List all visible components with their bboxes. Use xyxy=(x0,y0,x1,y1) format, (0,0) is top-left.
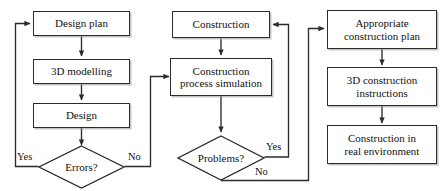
node-construction-in-real-environment-line2: real environment xyxy=(342,145,423,157)
edge-label-problems-no-text: No xyxy=(255,166,268,177)
node-appropriate-construction-plan-line1: Appropriate xyxy=(352,17,411,29)
edge-label-errors-yes: Yes xyxy=(17,151,32,162)
edge-label-errors-no: No xyxy=(128,151,141,162)
node-3d-construction-instructions[interactable]: 3D construction instructions xyxy=(327,67,437,106)
node-appropriate-construction-plan[interactable]: Appropriate construction plan xyxy=(327,10,437,49)
node-3d-modelling[interactable]: 3D modelling xyxy=(33,59,130,84)
edge-label-problems-yes: Yes xyxy=(266,141,281,152)
node-construction-in-real-environment[interactable]: Construction in real environment xyxy=(327,125,437,164)
edge-label-errors-yes-text: Yes xyxy=(17,151,32,162)
problems-diamond-shape xyxy=(178,136,264,180)
node-construction-label: Construction xyxy=(190,18,253,30)
node-appropriate-construction-plan-line2: construction plan xyxy=(341,30,423,42)
node-design[interactable]: Design xyxy=(33,103,130,128)
flowchart-diagram: Design plan 3D modelling Design Errors? … xyxy=(0,0,442,191)
edge-label-problems-no: No xyxy=(255,166,268,177)
node-design-label: Design xyxy=(63,109,100,121)
node-design-plan[interactable]: Design plan xyxy=(33,11,130,36)
node-3d-construction-instructions-line2: instructions xyxy=(353,87,410,99)
node-3d-construction-instructions-line1: 3D construction xyxy=(344,74,421,86)
node-errors-decision[interactable]: Errors? xyxy=(38,145,125,189)
node-construction-process-simulation[interactable]: Construction process simulation xyxy=(170,58,272,96)
node-construction-in-real-environment-line1: Construction in xyxy=(345,132,419,144)
errors-diamond-shape xyxy=(39,146,124,188)
edge-errors-yes-to-design-plan xyxy=(16,24,39,167)
node-problems-decision[interactable]: Problems? xyxy=(177,135,265,181)
node-design-plan-label: Design plan xyxy=(52,17,111,29)
node-construction[interactable]: Construction xyxy=(172,11,270,38)
edge-label-problems-yes-text: Yes xyxy=(266,141,281,152)
edge-label-errors-no-text: No xyxy=(128,151,141,162)
node-3d-modelling-label: 3D modelling xyxy=(48,65,115,77)
node-construction-process-simulation-line2: process simulation xyxy=(177,77,265,89)
node-construction-process-simulation-line1: Construction xyxy=(190,65,253,77)
